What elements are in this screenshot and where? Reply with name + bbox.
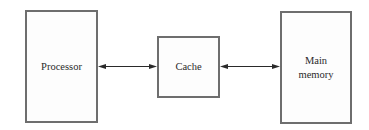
arrow-processor-cache bbox=[98, 64, 157, 69]
arrowhead-left-icon bbox=[98, 64, 106, 69]
arrowhead-left-icon bbox=[220, 64, 228, 69]
connector-arrows bbox=[0, 0, 369, 130]
arrow-cache-main-memory bbox=[220, 64, 280, 69]
arrowhead-right-icon bbox=[272, 64, 280, 69]
arrowhead-right-icon bbox=[149, 64, 157, 69]
